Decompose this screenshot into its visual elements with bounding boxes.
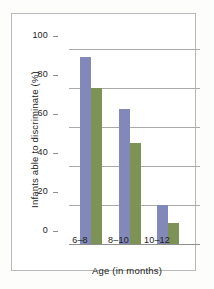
y-axis-tick-label: 60 (38, 108, 48, 118)
gridline (69, 49, 200, 50)
y-axis-tick-label: 80 (38, 69, 48, 79)
x-axis-title: Age (in months) (52, 265, 202, 276)
y-axis-tick-label: 20 (38, 186, 48, 196)
figure-frame: Infants able to discriminate (%) Age (in… (11, 13, 196, 271)
y-axis-tick (53, 75, 58, 76)
y-axis-tick (53, 114, 58, 115)
y-axis-tick-label: 100 (32, 30, 48, 40)
x-axis-tick-label: 6–8 (60, 235, 100, 245)
y-axis-tick (53, 153, 58, 154)
bar (130, 143, 141, 244)
y-axis-tick (53, 231, 58, 232)
y-axis-tick (53, 192, 58, 193)
plot-area (69, 49, 200, 244)
y-axis-tick (53, 36, 58, 37)
y-axis-tick-label: 40 (38, 147, 48, 157)
x-axis-tick-label: 8–10 (99, 235, 139, 245)
y-axis-tick-label: 0 (43, 225, 48, 235)
figure: Infants able to discriminate (%) Age (in… (0, 0, 214, 289)
x-axis-tick-label: 10–12 (137, 235, 177, 245)
bar (80, 57, 91, 244)
bar (91, 88, 102, 244)
bar (119, 109, 130, 244)
